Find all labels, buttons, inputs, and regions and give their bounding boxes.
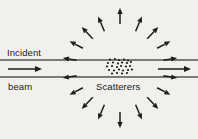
scattered-arrow [63, 56, 77, 61]
scattered-arrow [157, 88, 170, 95]
scattered-arrow [117, 8, 122, 24]
scatterer-dot [117, 62, 119, 64]
label-beam: beam [8, 81, 32, 92]
scattered-arrow [70, 41, 83, 48]
scatterer-dot [118, 68, 120, 70]
scattered-arrow-shaft [136, 105, 140, 114]
scattered-arrow [70, 88, 83, 95]
scatterer-dot [107, 62, 109, 64]
scatterer-dot [127, 59, 129, 61]
scatterer-dot [111, 72, 113, 74]
scatterer-dot [126, 62, 128, 64]
scattered-arrow-head [171, 56, 177, 61]
incident-beam-arrow-head [35, 66, 42, 72]
scattered-arrow-shaft [157, 44, 165, 48]
scatterer-dot [116, 72, 118, 74]
scatterer-dot [114, 58, 116, 60]
scattered-arrow-shaft [86, 31, 93, 38]
scatterer-dot [116, 66, 118, 68]
scattered-arrow [157, 41, 170, 48]
scattered-arrow-shaft [75, 88, 83, 92]
scatterer-dot [112, 61, 114, 63]
scatterer-dot [122, 69, 124, 71]
scattering-diagram: Incident beam Scatterers [0, 0, 198, 139]
scattered-arrow [98, 105, 104, 120]
outgoing-beam-arrow-head [184, 66, 191, 72]
scattered-arrow-shaft [86, 97, 93, 104]
scatterer-dot [129, 65, 131, 67]
scatterer-dot [113, 69, 115, 71]
scattered-arrow-head [63, 56, 69, 61]
scattered-arrow-shaft [147, 31, 154, 38]
scatterer-dot [131, 68, 133, 70]
scattered-arrow [136, 16, 142, 31]
scatterer-dot [111, 65, 113, 67]
scatterer-dot [126, 72, 128, 74]
scatterer-dot [125, 65, 127, 67]
scatterer-dot [121, 61, 123, 63]
scattered-arrow-shaft [147, 97, 154, 104]
scatterer-dot [118, 59, 120, 61]
scattered-arrow-shaft [157, 88, 165, 92]
scattered-arrow [163, 56, 177, 61]
scatterer-dot [121, 72, 123, 74]
scattered-arrow-shaft [136, 22, 140, 31]
scatterer-dot [123, 58, 125, 60]
scatterer-dot-cluster [106, 58, 133, 75]
scatterer-dot [108, 69, 110, 71]
scatterer-dot [130, 61, 132, 63]
scattered-wave-arrows [63, 8, 177, 128]
scatterer-dot [106, 65, 108, 67]
scatterer-dot [120, 65, 122, 67]
scattered-arrow [147, 27, 158, 39]
scattered-arrow-shaft [100, 105, 104, 114]
scattered-arrow [98, 16, 104, 31]
scattered-arrow-shaft [75, 44, 83, 48]
scattered-arrow [117, 112, 122, 128]
label-scatterers: Scatterers [96, 81, 140, 92]
scattered-arrow-head [117, 122, 122, 128]
scattered-arrow-head [117, 8, 122, 14]
beam-direction-arrows [8, 66, 191, 72]
scattered-arrow-shaft [100, 22, 104, 31]
scatterer-dot [127, 69, 129, 71]
scatterer-dot [109, 58, 111, 60]
diagram-canvas [0, 0, 198, 139]
scattered-arrow [82, 97, 93, 109]
scattered-arrow [82, 27, 93, 39]
scattered-arrow [136, 105, 142, 120]
scattered-arrow [147, 97, 158, 109]
label-incident: Incident [7, 47, 41, 58]
